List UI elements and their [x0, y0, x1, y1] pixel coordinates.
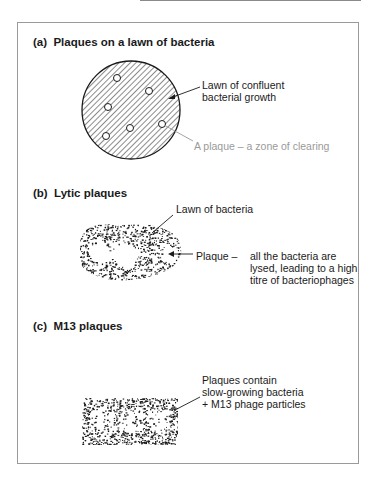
- bacterial-lawn-disc: [82, 61, 180, 159]
- panel-b-leader-lines: [152, 215, 193, 257]
- m13-plaques-stipple: [82, 398, 179, 447]
- lytic-plaques-stipple: [78, 220, 187, 283]
- panel-c-leader-line: [175, 397, 200, 410]
- diagram-artwork: [0, 0, 378, 495]
